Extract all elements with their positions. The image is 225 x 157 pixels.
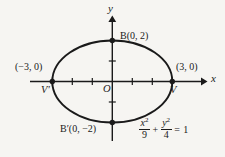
plus-operator: + [152, 124, 160, 135]
y-axis-arrowhead [108, 16, 116, 23]
term2-exponent: 2 [167, 116, 171, 124]
origin-label: O [103, 84, 111, 95]
point-V-prime [50, 79, 55, 84]
right-vertex-name: V [170, 85, 176, 96]
point-B [110, 38, 115, 43]
term1-denominator: 9 [141, 130, 148, 141]
term1-exponent: 2 [145, 116, 149, 124]
x-axis-label: x [211, 73, 216, 84]
graph-canvas [0, 0, 225, 157]
right-point-label: (3, 0) [176, 62, 198, 72]
top-vertex-label: B(0, 2) [120, 31, 148, 41]
left-vertex-name: V′ [41, 85, 50, 96]
ellipse-figure: y x O B(0, 2) B′(0, −2) (−3, 0) (3, 0) V… [0, 0, 225, 157]
equation-right-side: 1 [182, 124, 189, 135]
ellipse-equation: x2 9 + y2 4 = 1 [139, 118, 189, 140]
x-axis-arrowhead [201, 78, 208, 86]
y-axis-label: y [108, 3, 113, 14]
left-point-label: (−3, 0) [15, 62, 42, 72]
equation-term-x: x2 9 [139, 118, 150, 140]
equals-sign: = [173, 124, 181, 135]
term2-denominator: 4 [163, 130, 170, 141]
equation-term-y: y2 4 [161, 118, 172, 140]
point-B-prime [110, 120, 115, 125]
bottom-vertex-label: B′(0, −2) [60, 124, 96, 134]
